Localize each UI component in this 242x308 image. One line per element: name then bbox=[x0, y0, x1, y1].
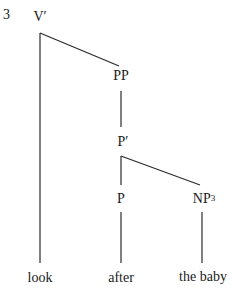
node-np: NP3 bbox=[193, 191, 215, 207]
node-vbar: V′ bbox=[33, 9, 46, 25]
leaf-the-baby: the baby bbox=[179, 269, 227, 285]
node-pp: PP bbox=[113, 68, 129, 84]
leaf-after: after bbox=[108, 270, 134, 286]
branch-pbar-to-np bbox=[121, 156, 200, 185]
node-np-index: 3 bbox=[211, 193, 216, 203]
branch-vbar-to-pp bbox=[40, 33, 119, 66]
node-p: P bbox=[117, 191, 125, 207]
example-number: 3 bbox=[3, 7, 10, 23]
node-np-label: NP bbox=[193, 191, 211, 206]
tree-branches bbox=[0, 0, 242, 308]
leaf-look: look bbox=[28, 270, 53, 286]
node-pbar: P′ bbox=[118, 134, 129, 150]
